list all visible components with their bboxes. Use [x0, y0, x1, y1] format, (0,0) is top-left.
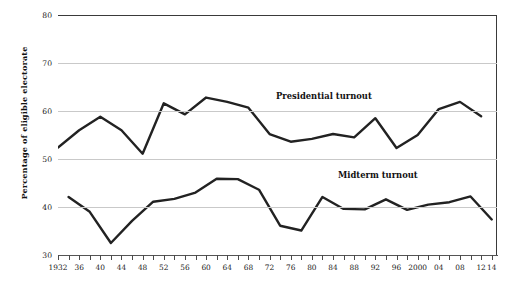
x-tick-label-14: 14	[477, 263, 507, 272]
x-tick-1982	[322, 255, 323, 260]
x-tick-1942	[111, 255, 112, 260]
x-tick-1984	[333, 255, 334, 260]
x-tick-1946	[132, 255, 133, 260]
x-axis-tick-labels: 1932364044485256606468727680848892962000…	[0, 263, 513, 277]
turnout-line-chart: Percentage of eligible electorate 304050…	[0, 0, 513, 283]
gridline-50	[58, 159, 497, 160]
x-tick-1954	[174, 255, 175, 260]
x-tick-1972	[270, 255, 271, 260]
x-tick-1998	[407, 255, 408, 260]
x-tick-1952	[164, 255, 165, 260]
x-tick-2010	[471, 255, 472, 260]
y-tick-label-30: 30	[26, 251, 52, 260]
x-tick-1996	[397, 255, 398, 260]
series-line-midterm	[69, 179, 492, 243]
gridline-40	[58, 207, 497, 208]
x-tick-2004	[439, 255, 440, 260]
x-tick-2000	[418, 255, 419, 260]
y-tick-label-40: 40	[26, 203, 52, 212]
y-axis-tick-labels: 304050607080	[24, 0, 52, 283]
series-lines	[58, 15, 497, 256]
x-tick-2006	[449, 255, 450, 260]
x-tick-1940	[100, 255, 101, 260]
x-tick-1966	[238, 255, 239, 260]
x-tick-1980	[312, 255, 313, 260]
x-tick-1970	[259, 255, 260, 260]
x-tick-1976	[291, 255, 292, 260]
x-tick-1986	[344, 255, 345, 260]
x-axis-ticks	[58, 255, 498, 261]
x-tick-1978	[301, 255, 302, 260]
x-tick-1960	[206, 255, 207, 260]
series-line-presidential	[58, 98, 481, 154]
y-tick-label-70: 70	[26, 59, 52, 68]
x-tick-1964	[227, 255, 228, 260]
x-tick-1956	[185, 255, 186, 260]
x-tick-1944	[121, 255, 122, 260]
x-tick-1934	[69, 255, 70, 260]
y-tick-label-50: 50	[26, 155, 52, 164]
plot-border-right	[496, 15, 497, 256]
x-tick-1992	[375, 255, 376, 260]
x-tick-2014	[492, 255, 493, 260]
x-tick-1958	[196, 255, 197, 260]
gridline-80	[58, 15, 497, 16]
x-tick-2002	[428, 255, 429, 260]
x-tick-1994	[386, 255, 387, 260]
series-label-midterm: Midterm turnout	[338, 170, 418, 180]
plot-area	[58, 15, 497, 255]
x-tick-1948	[143, 255, 144, 260]
x-tick-1938	[90, 255, 91, 260]
y-tick-label-60: 60	[26, 107, 52, 116]
x-tick-1988	[354, 255, 355, 260]
x-tick-1932	[58, 255, 59, 260]
series-label-presidential: Presidential turnout	[276, 91, 372, 101]
x-tick-1974	[280, 255, 281, 260]
x-tick-1968	[248, 255, 249, 260]
x-tick-1962	[217, 255, 218, 260]
x-tick-1950	[153, 255, 154, 260]
x-tick-2012	[481, 255, 482, 260]
x-tick-1990	[365, 255, 366, 260]
y-tick-label-80: 80	[26, 11, 52, 20]
gridline-70	[58, 63, 497, 64]
x-tick-2008	[460, 255, 461, 260]
x-tick-1936	[79, 255, 80, 260]
gridline-60	[58, 111, 497, 112]
